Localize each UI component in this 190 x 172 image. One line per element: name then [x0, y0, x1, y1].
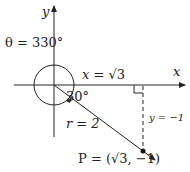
right-angle-marker: [134, 85, 143, 93]
unit-circle-diagram: y x θ = 330° 30° x = √3 y = −1 r = 2 P =…: [0, 0, 190, 172]
diagram-graphics: [0, 0, 190, 172]
radius-label: r = 2: [66, 117, 100, 130]
y-axis-label: y: [42, 5, 49, 18]
y-coordinate-label: y = −1: [149, 113, 184, 123]
point-label: P = (√3, −1): [78, 152, 160, 165]
x-axis-label: x: [173, 65, 180, 78]
angle-label: θ = 330°: [5, 36, 63, 49]
x-coordinate-label: x = √3: [82, 68, 125, 81]
reference-angle-label: 30°: [66, 90, 89, 103]
